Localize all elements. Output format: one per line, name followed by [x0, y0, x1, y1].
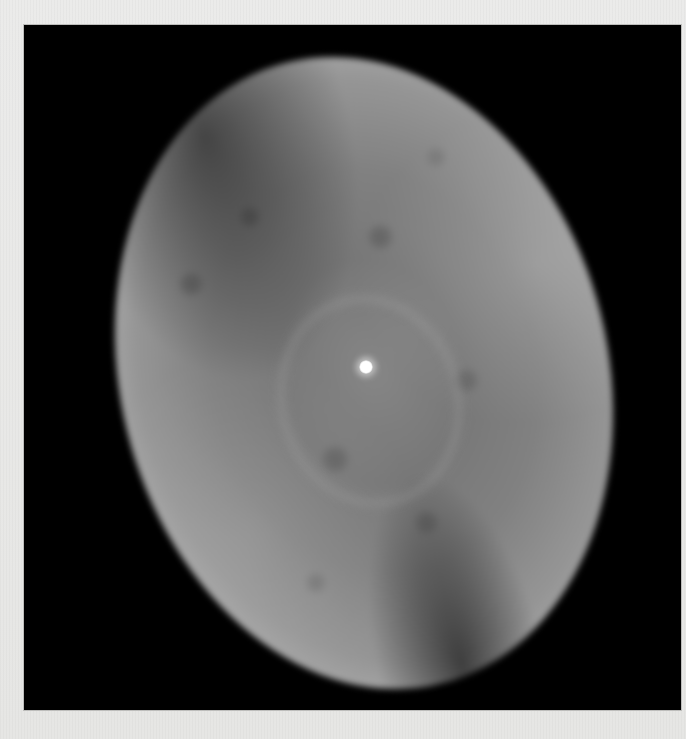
central-star — [359, 360, 373, 374]
photo-frame — [24, 25, 681, 710]
